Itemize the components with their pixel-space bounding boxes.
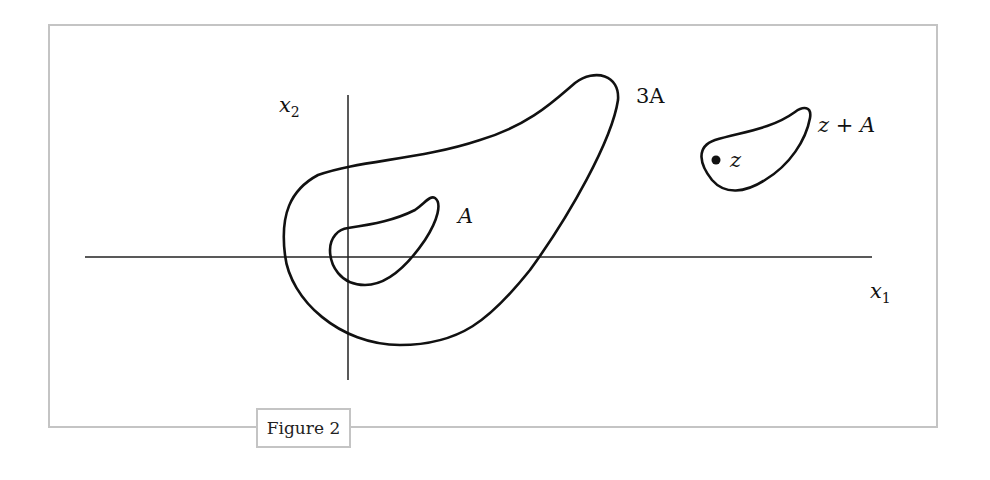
figure-caption: Figure 2 (256, 408, 351, 448)
label-z: z (729, 148, 742, 172)
x2-axis-label: x2 (279, 93, 300, 120)
x1-axis-label: x1 (870, 279, 891, 306)
point-z (712, 156, 721, 165)
shape-z-plus-A (701, 108, 810, 190)
label-z-plus-A: z + A (817, 113, 875, 137)
label-A: A (456, 204, 473, 228)
diagram-canvas: x2 x1 A 3A z + A z (0, 0, 990, 480)
shape-3A (284, 75, 618, 345)
label-3A: 3A (636, 84, 665, 108)
shape-A (330, 197, 438, 285)
figure: x2 x1 A 3A z + A z Figure 2 (0, 0, 990, 480)
